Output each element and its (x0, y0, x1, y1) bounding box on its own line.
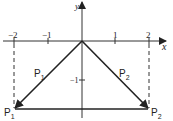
x-tick-label-2: 2 (146, 30, 151, 40)
x-axis-label: x (161, 41, 167, 52)
point-p1-label: P1 (4, 107, 15, 120)
vector-diagram: x y −2 −1 1 2 −1 P1 P2 P1 P2 (0, 0, 173, 121)
x-tick-label-neg2: −2 (8, 30, 18, 40)
point-p2-label: P2 (151, 107, 162, 120)
vector-p1 (15, 41, 82, 108)
vector-p2 (82, 41, 148, 108)
y-axis-label: y (74, 1, 79, 11)
x-tick-label-neg1: −1 (42, 30, 52, 40)
vector-p1-label: P1 (34, 68, 45, 81)
x-tick-label-1: 1 (113, 30, 118, 40)
y-tick-label-neg1: −1 (70, 76, 79, 85)
